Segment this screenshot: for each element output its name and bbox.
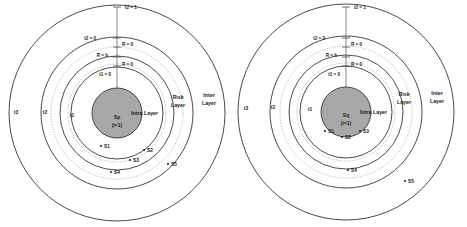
left-zone-label-risk-line2: Layer [171,102,185,108]
left-label-tick-outer: t2 = 1 [125,5,137,10]
right-core-label-bottom: (i=1) [341,120,352,126]
right-point-label-s3: S3 [363,129,369,134]
right-point-s5: S5 [404,179,414,184]
right-label-tick-t2: t2 = 0 [313,36,325,41]
right-zone-label-intra: Intra Layer [360,109,387,115]
left-point-s4: S4 [110,170,120,175]
left-zone-label-inter-line1: Inter [203,92,214,98]
left-point-s3: S3 [129,158,139,163]
left-point-marker-s2 [143,149,145,151]
right-point-marker-s2 [341,136,343,138]
diagram-panel-right: t2 = 1 t2 = 0 R = 0 R = b R = 0 t1 = 0 S… [234,0,467,227]
right-label-tick-t1: t1 = 0 [328,72,340,77]
left-point-label-s4: S4 [114,170,120,175]
left-point-marker-s5 [167,163,169,165]
right-point-label-s4: S4 [351,168,357,173]
right-label-tick-r-zero: R = 0 [351,62,363,67]
left-time-label-t2: t2 [43,110,48,115]
left-zone-label-inter-line2: Layer [202,100,216,106]
right-point-label-s5: S5 [408,179,414,184]
left-label-tick-t2: t2 = 0 [84,36,96,41]
right-time-label-t3: t3 [244,106,249,111]
left-label-tick-r-b: R = b [97,53,109,58]
left-core-label-top: Sp [114,114,120,120]
left-point-marker-s4 [110,171,112,173]
left-point-label-s5: S5 [171,162,177,167]
right-label-tick-r-b: R = b [326,53,338,58]
right-time-label-t1: t1 [308,107,313,112]
right-point-marker-s3 [359,130,361,132]
right-zone-label-risk-line1: Risk [398,91,409,97]
right-zone-label-inter-line2: Layer [430,98,444,104]
left-diagram-svg: t2 = 1 t2 = 0 R = 0 R = b R = 0 t1 = 0 S… [0,0,233,227]
right-label-tick-r-inf: R = 0 [351,42,363,47]
right-zone-label-risk-line2: Layer [397,99,411,105]
left-point-marker-s1 [100,145,102,147]
left-point-s5: S5 [167,162,177,167]
left-zone-label-risk-line1: Risk [172,94,183,100]
right-point-s1: S1 [324,129,334,134]
left-point-label-s3: S3 [133,158,139,163]
right-point-label-s2: S2 [345,135,351,140]
left-label-tick-r-inf: R = 0 [122,42,134,47]
figure-root: t2 = 1 t2 = 0 R = 0 R = b R = 0 t1 = 0 S… [0,0,467,227]
left-core-label-bottom: (i=1) [112,122,123,128]
right-point-marker-s5 [404,180,406,182]
right-diagram-svg: t2 = 1 t2 = 0 R = 0 R = b R = 0 t1 = 0 S… [234,0,467,227]
left-point-s2: S2 [143,148,153,153]
left-point-s1: S1 [100,144,110,149]
left-time-label-t3: t3 [14,110,19,115]
right-point-marker-s1 [324,130,326,132]
left-point-marker-s3 [129,159,131,161]
left-label-tick-t1: t1 = 0 [99,72,111,77]
left-label-tick-r-zero: R = 0 [122,62,134,67]
left-point-label-s2: S2 [147,148,153,153]
right-time-label-t2: t2 [271,105,276,110]
right-zone-label-inter-line1: Inter [431,90,442,96]
right-point-label-s1: S1 [328,129,334,134]
left-point-label-s1: S1 [104,144,110,149]
right-point-marker-s4 [347,169,349,171]
left-time-label-t1: t1 [70,113,75,118]
left-zone-label-intra: Intra Layer [131,110,158,116]
diagram-panel-left: t2 = 1 t2 = 0 R = 0 R = b R = 0 t1 = 0 S… [0,0,233,227]
right-core-label-top: Sq [343,112,349,118]
right-label-tick-outer: t2 = 1 [354,5,366,10]
